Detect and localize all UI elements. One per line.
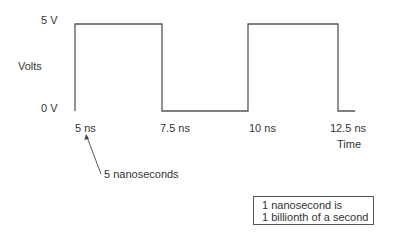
x-tick-7-5ns: 7.5 ns (160, 122, 190, 135)
x-axis-title: Time (337, 138, 361, 151)
definition-note-box: 1 nanosecond is 1 billionth of a second (253, 196, 374, 225)
x-tick-12-5ns: 12.5 ns (330, 122, 366, 135)
square-wave (75, 24, 355, 111)
note-line-1: 1 nanosecond is (262, 199, 373, 211)
note-line-2: 1 billionth of a second (262, 211, 373, 223)
x-tick-10ns: 10 ns (249, 122, 276, 135)
arrow-icon (85, 134, 102, 174)
annotation-5-nanoseconds: 5 nanoseconds (104, 168, 179, 181)
y-axis-title: Volts (18, 60, 42, 73)
y-label-5v: 5 V (41, 14, 58, 27)
x-tick-5ns: 5 ns (75, 122, 96, 135)
y-label-0v: 0 V (41, 102, 58, 115)
